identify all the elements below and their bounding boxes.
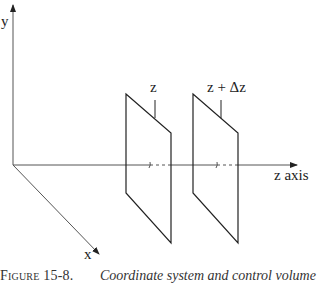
- figure: y x z axis z z + Δz Figure 15-8. Coordin…: [0, 0, 318, 287]
- coordinate-system-diagram: [0, 0, 318, 287]
- z-axis: [13, 162, 297, 168]
- plane-z-plus-dz-label: z + Δz: [207, 80, 246, 95]
- plane-z-plus-dz: [193, 94, 238, 243]
- figure-caption: Figure 15-8. Coordinate system and contr…: [0, 268, 318, 284]
- plane-z-label: z: [150, 80, 157, 95]
- caption-text: Coordinate system and control volume for: [100, 268, 318, 284]
- figure-number: Figure 15-8.: [0, 268, 73, 283]
- x-axis-label: x: [84, 247, 92, 262]
- x-axis: [13, 165, 99, 254]
- plane-z: [126, 94, 171, 243]
- y-axis-label: y: [1, 14, 9, 29]
- z-axis-label: z axis: [274, 168, 309, 183]
